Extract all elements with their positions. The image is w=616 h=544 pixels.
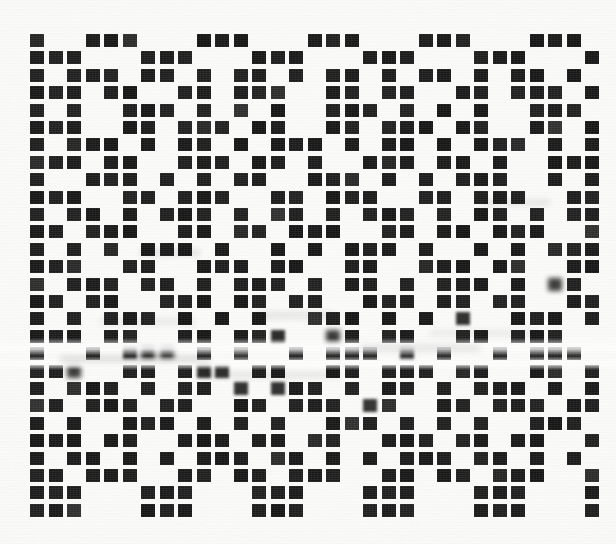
- matrix-cell: [49, 365, 63, 378]
- matrix-cell: [49, 486, 63, 499]
- matrix-cell: [123, 156, 137, 169]
- matrix-cell: [67, 452, 81, 465]
- matrix-cell: [585, 225, 599, 238]
- matrix-cell: [86, 34, 100, 47]
- matrix-cell: [437, 191, 451, 204]
- matrix-cell: [530, 417, 544, 430]
- matrix-cell: [178, 295, 192, 308]
- matrix-cell: [400, 469, 414, 482]
- matrix-cell: [585, 138, 599, 151]
- matrix-cell: [419, 452, 433, 465]
- matrix-cell: [178, 382, 192, 395]
- matrix-cell: [160, 173, 174, 186]
- matrix-cell: [400, 295, 414, 308]
- matrix-cell: [548, 104, 562, 117]
- matrix-cell: [30, 138, 44, 151]
- matrix-cell: [86, 69, 100, 82]
- matrix-cell: [197, 86, 211, 99]
- matrix-cell: [530, 225, 544, 238]
- matrix-cell: [326, 434, 340, 447]
- matrix-cell: [474, 504, 488, 517]
- matrix-cell: [30, 278, 44, 291]
- matrix-cell: [511, 243, 525, 256]
- matrix-cell: [530, 312, 544, 325]
- matrix-cell: [585, 243, 599, 256]
- matrix-cell: [474, 434, 488, 447]
- matrix-cell: [234, 347, 248, 360]
- matrix-cell: [363, 417, 377, 430]
- matrix-cell: [178, 243, 192, 256]
- matrix-cell: [160, 295, 174, 308]
- matrix-cell: [178, 330, 192, 343]
- matrix-cell: [345, 278, 359, 291]
- matrix-cell: [178, 486, 192, 499]
- matrix-cell: [197, 417, 211, 430]
- matrix-cell: [326, 69, 340, 82]
- matrix-cell: [123, 452, 137, 465]
- matrix-cell: [382, 469, 396, 482]
- matrix-cell: [548, 347, 562, 360]
- matrix-cell: [271, 486, 285, 499]
- matrix-cell: [548, 121, 562, 134]
- matrix-cell: [326, 104, 340, 117]
- matrix-cell: [160, 399, 174, 412]
- matrix-cell: [252, 86, 266, 99]
- matrix-cell: [289, 382, 303, 395]
- matrix-cell: [49, 51, 63, 64]
- matrix-cell: [271, 121, 285, 134]
- matrix-cell: [160, 51, 174, 64]
- matrix-cell: [345, 86, 359, 99]
- matrix-cell: [585, 504, 599, 517]
- matrix-cell: [30, 504, 44, 517]
- matrix-cell: [289, 260, 303, 273]
- matrix-cell: [363, 295, 377, 308]
- matrix-cell: [252, 399, 266, 412]
- matrix-cell: [215, 434, 229, 447]
- matrix-cell: [308, 312, 322, 325]
- matrix-cell: [400, 452, 414, 465]
- matrix-cell: [456, 434, 470, 447]
- matrix-cell: [326, 452, 340, 465]
- matrix-cell: [511, 399, 525, 412]
- matrix-cell: [30, 452, 44, 465]
- matrix-cell: [493, 399, 507, 412]
- matrix-cell: [49, 434, 63, 447]
- matrix-cell: [548, 173, 562, 186]
- matrix-cell: [49, 191, 63, 204]
- matrix-cell: [123, 86, 137, 99]
- matrix-cell: [437, 208, 451, 221]
- matrix-cell: [289, 295, 303, 308]
- matrix-cell: [178, 365, 192, 378]
- matrix-cell: [326, 225, 340, 238]
- matrix-cell: [123, 469, 137, 482]
- matrix-cell: [67, 417, 81, 430]
- matrix-cell: [363, 486, 377, 499]
- matrix-cell: [548, 243, 562, 256]
- matrix-cell: [511, 225, 525, 238]
- matrix-cell: [345, 382, 359, 395]
- matrix-cell: [271, 382, 285, 395]
- matrix-cell: [141, 191, 155, 204]
- matrix-cell: [548, 330, 562, 343]
- matrix-cell: [215, 156, 229, 169]
- matrix-cell: [67, 365, 81, 378]
- matrix-cell: [400, 138, 414, 151]
- matrix-cell: [511, 382, 525, 395]
- matrix-cell: [363, 51, 377, 64]
- matrix-cell: [530, 34, 544, 47]
- matrix-cell: [104, 69, 118, 82]
- matrix-cell: [326, 208, 340, 221]
- matrix-cell: [326, 312, 340, 325]
- matrix-cell: [30, 173, 44, 186]
- matrix-cell: [141, 486, 155, 499]
- matrix-cell: [178, 86, 192, 99]
- matrix-cell: [30, 347, 44, 360]
- matrix-cell: [382, 330, 396, 343]
- matrix-cell: [67, 486, 81, 499]
- matrix-cell: [474, 452, 488, 465]
- matrix-cell: [67, 138, 81, 151]
- matrix-cell: [530, 330, 544, 343]
- matrix-cell: [178, 121, 192, 134]
- matrix-cell: [567, 399, 581, 412]
- matrix-cell: [289, 469, 303, 482]
